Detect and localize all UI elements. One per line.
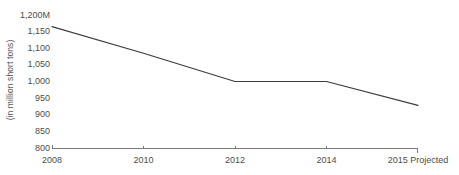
- data-series-group: [52, 27, 418, 106]
- data-line: [52, 27, 418, 106]
- plot-area: [0, 0, 459, 175]
- line-chart: (in million short tons) 1,200M1,1501,100…: [0, 0, 459, 175]
- axis-lines: [52, 145, 418, 153]
